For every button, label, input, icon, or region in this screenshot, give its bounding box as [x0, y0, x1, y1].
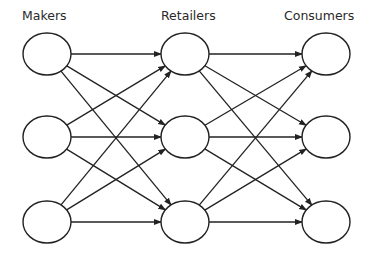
makers-node-1 — [23, 33, 71, 75]
network-graph — [0, 0, 368, 253]
consumers-node-1 — [302, 33, 350, 75]
makers-node-2 — [23, 116, 71, 158]
retailers-node-2 — [161, 116, 209, 158]
retailers-node-3 — [161, 201, 209, 243]
retailers-node-1 — [161, 33, 209, 75]
consumers-node-2 — [302, 116, 350, 158]
makers-node-3 — [23, 201, 71, 243]
supply-chain-diagram: Makers Retailers Consumers — [0, 0, 368, 253]
consumers-node-3 — [302, 201, 350, 243]
nodes — [23, 33, 350, 243]
